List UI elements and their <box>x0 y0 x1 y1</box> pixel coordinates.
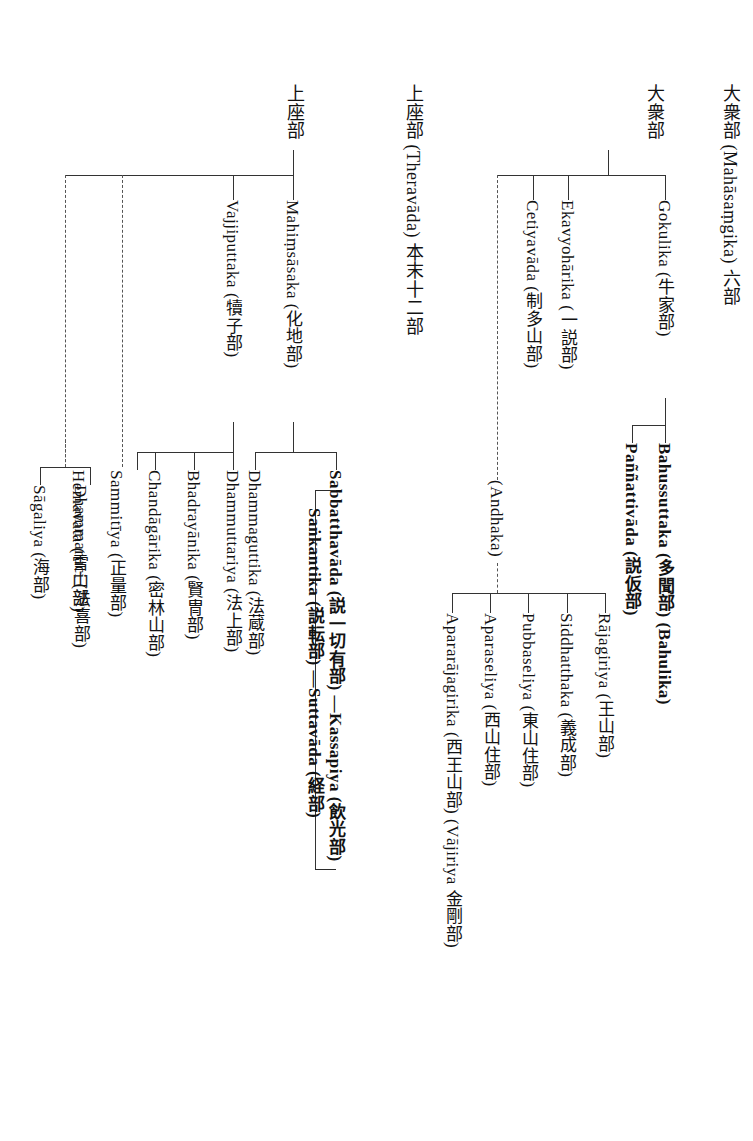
node-siddhatthaka: Siddhatthaka (義成部) <box>558 613 575 777</box>
connector-drop-dhammaruci <box>90 467 91 485</box>
connector-sagaliya-bar <box>40 467 90 468</box>
connector-mahimsasaka-stem <box>293 422 294 452</box>
connector-gokulika-stem <box>665 398 666 425</box>
node-cetiyavada: Cetiyavāda (制多山部) <box>524 200 541 369</box>
node-gokulika: Gokulika (牛家部) <box>656 200 673 337</box>
connector-drop-pannattivada <box>632 425 633 443</box>
node-dhammaguttika: Dhammaguttika (法蔵部) <box>246 470 263 656</box>
root-label-theravada: 上座部 (Theravāda) 本末十二部 <box>404 84 422 335</box>
connector-sankantika-top <box>315 490 336 491</box>
connector-theravada-bar <box>65 175 293 176</box>
connector-kassapiya-foot <box>315 869 336 870</box>
connector-drop-bahussuttaka <box>665 425 666 443</box>
connector-drop-pubbaseliya <box>528 593 529 613</box>
connector-gokulika-bar <box>632 425 665 426</box>
connector-drop-dhammuttariya <box>233 452 234 470</box>
node-sankantika: Saṅkantika (説転部) ―Suttavāda (経部) <box>306 508 323 818</box>
connector-drop-rajagiriya <box>605 593 606 613</box>
node-pubbaseliya: Pubbaseliya (東山住部) <box>520 613 537 788</box>
connector-drop-gokulika <box>665 175 666 200</box>
connector-sammitiya-bar <box>137 452 155 453</box>
node-pannattivada: Paññattivāda (説仮部) <box>623 443 640 616</box>
node-apararajagirika: Apararājagirika (西王山部) (Vājiriya 金剛部) <box>444 613 461 948</box>
connector-drop-sagaliya-group <box>65 175 66 467</box>
connector-drop-siddhatthaka <box>567 593 568 613</box>
node-bahussuttaka: Bahussuttaka (多聞部) (Bahulika) <box>656 443 673 705</box>
connector-drop-andhaka <box>497 175 498 480</box>
connector-mahasamghika-stem <box>608 150 609 175</box>
connector-vajjiputtaka-stem <box>233 422 234 452</box>
connector-drop-sabbatthavada <box>336 452 337 470</box>
node-aparaseliya: Aparaseliya (西山住部) <box>482 613 499 787</box>
connector-drop-cetiyavada <box>533 175 534 200</box>
root-label-theravada-short: 上座部 <box>285 84 303 140</box>
node-ekavyoharika: Ekavyohārika (一説部) <box>559 200 576 370</box>
node-bhadrayanika: Bhadrayānika (賢冑部) <box>185 470 202 640</box>
connector-drop-bhadrayanika <box>194 452 195 470</box>
node-dhammaruci: Dhammaruci (法喜部) <box>72 485 89 648</box>
node-sagaliya: Sāgaliya (海部) <box>31 485 48 600</box>
root-label-mahasamghika-short: 大衆部 <box>645 84 663 140</box>
node-sabbatthavada: Sabbatthavāda (説一切有部) ―Kassapiya (飲光部) <box>327 470 344 862</box>
connector-mahasamghika-bar <box>497 175 666 176</box>
connector-andhaka-stem <box>497 563 498 593</box>
lineage-chart: 大衆部 (Mahāsaṃgika) 六部 大衆部 Gokulika (牛家部) … <box>0 0 753 1141</box>
connector-drop-mahimsasaka <box>293 175 294 200</box>
node-dhammuttariya: Dhammuttariya (法上部) <box>224 470 241 653</box>
connector-drop-hemavata <box>122 175 123 467</box>
node-vajjiputtaka: Vajjiputtaka (犢子部) <box>224 200 241 358</box>
root-label-mahasamghika: 大衆部 (Mahāsaṃgika) 六部 <box>721 84 739 306</box>
node-rajagiriya: Rājagiriya (王山部) <box>596 613 613 758</box>
connector-sagaliya-stem <box>65 440 66 467</box>
connector-drop-ekavyoharika <box>568 175 569 200</box>
node-andhaka: (Andhaka) <box>488 480 505 557</box>
connector-drop-dhammaguttika <box>255 452 256 470</box>
node-mahimsasaka: Mahiṃsāsaka (化地部) <box>284 200 301 369</box>
connector-drop-sankantika <box>315 490 316 508</box>
connector-drop-sammitiya <box>137 452 138 470</box>
node-chandagarika: Chandāgārika (密林山部) <box>146 470 163 657</box>
connector-mahimsasaka-bar <box>255 452 336 453</box>
connector-drop-sagaliya <box>40 467 41 485</box>
connector-drop-vajjiputtaka <box>233 175 234 200</box>
node-sammitiya: Sammitīya (正量部) <box>108 470 125 618</box>
connector-theravada-stem <box>293 150 294 175</box>
connector-drop-aparaseliya <box>490 593 491 613</box>
connector-drop-chandagarika <box>155 452 156 470</box>
connector-drop-apararajagirika <box>452 593 453 613</box>
